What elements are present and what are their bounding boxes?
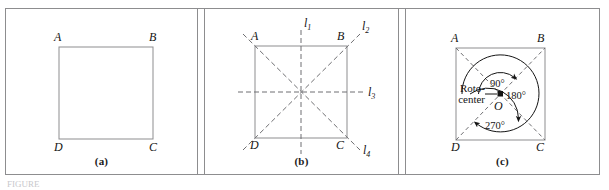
symmetry-line-label-l2: l2 bbox=[362, 20, 369, 35]
panel-divider-bc-left bbox=[398, 8, 399, 175]
rotocenter-label-line2: center bbox=[423, 94, 485, 105]
vertex-label-c: C bbox=[149, 141, 157, 153]
panel-c-caption: (c) bbox=[406, 155, 599, 167]
rotation-label-270: 270° bbox=[485, 121, 505, 132]
vertex-label-a: A bbox=[251, 30, 258, 42]
vertex-label-c: C bbox=[536, 141, 544, 153]
panel-a-caption: (a) bbox=[6, 155, 197, 167]
vertex-label-b: B bbox=[149, 31, 156, 43]
figure-bottom-caption-strip: FIGURE bbox=[7, 180, 73, 187]
vertex-label-b: B bbox=[337, 30, 344, 42]
panel-c: A B C D O Roto- center 90° 180° 270° (c) bbox=[406, 8, 599, 175]
panel-a-square-drawing bbox=[6, 8, 197, 175]
panel-b: A B C D l1 l2 l3 l4 (b) bbox=[205, 8, 398, 175]
panel-b-caption: (b) bbox=[205, 155, 398, 167]
vertex-label-a: A bbox=[54, 31, 61, 43]
vertex-label-c: C bbox=[336, 139, 344, 151]
symmetry-line-label-l1: l1 bbox=[304, 17, 311, 32]
vertex-label-d: D bbox=[451, 141, 460, 153]
figure-root: A B C D (a) A B C D l1 l2 l3 l4 (b) bbox=[0, 0, 609, 190]
rotation-label-90: 90° bbox=[490, 79, 505, 90]
symmetry-line-label-l3: l3 bbox=[368, 86, 375, 101]
vertex-label-b: B bbox=[537, 32, 544, 44]
square-abcd bbox=[59, 47, 153, 139]
panel-a: A B C D (a) bbox=[6, 8, 197, 175]
vertex-label-d: D bbox=[54, 141, 63, 153]
vertex-label-d: D bbox=[250, 139, 259, 151]
vertex-label-a: A bbox=[451, 32, 458, 44]
panel-divider-ab-left bbox=[197, 8, 198, 175]
rotation-label-180: 180° bbox=[506, 91, 526, 102]
rotocenter-dot bbox=[498, 91, 504, 97]
center-label-o: O bbox=[494, 100, 503, 112]
